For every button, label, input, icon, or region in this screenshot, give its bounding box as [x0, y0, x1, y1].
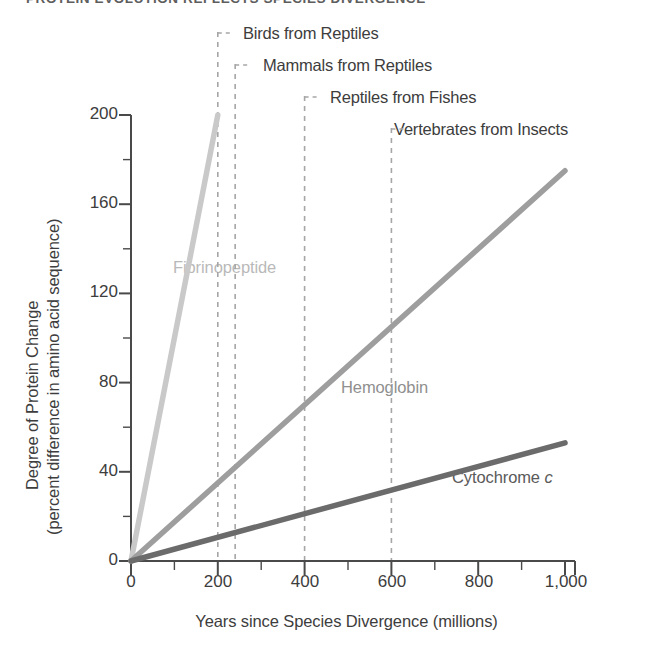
series-lines: [131, 115, 565, 561]
chart-figure: PROTEIN EVOLUTION REFLECTS SPECIES DIVER…: [0, 0, 657, 646]
axes: [119, 115, 575, 575]
plot-area: [0, 0, 657, 646]
annotation-guide-lines: [218, 32, 404, 561]
